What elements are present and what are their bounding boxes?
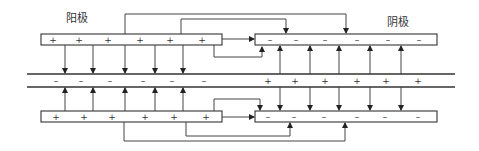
svg-text:+: +	[321, 76, 329, 86]
svg-text:+: +	[141, 112, 149, 122]
svg-text:+: +	[414, 76, 422, 86]
svg-text:–: –	[54, 76, 59, 86]
svg-text:–: –	[416, 112, 421, 122]
svg-text:+: +	[202, 112, 210, 122]
svg-text:+: +	[264, 76, 272, 86]
cathode-label: 阴极	[387, 15, 409, 29]
top-anode-bar: + + + + + +	[41, 34, 222, 45]
svg-text:–: –	[355, 35, 360, 45]
svg-text:–: –	[266, 112, 271, 122]
svg-text:–: –	[355, 112, 360, 122]
central-band: – – – – – – + + + + + +	[27, 74, 455, 87]
svg-text:+: +	[291, 76, 299, 86]
svg-text:+: +	[198, 35, 206, 45]
top-cathode-field-arrows	[280, 46, 401, 74]
svg-text:+: +	[49, 35, 57, 45]
svg-text:–: –	[322, 112, 327, 122]
svg-text:+: +	[104, 35, 112, 45]
svg-text:–: –	[268, 35, 273, 45]
svg-text:+: +	[80, 112, 88, 122]
bottom-cathode-field-arrows	[280, 87, 401, 110]
top-cathode-bar: – – – – – –	[255, 34, 437, 45]
svg-text:+: +	[382, 76, 390, 86]
anode-label: 阳极	[66, 11, 88, 25]
svg-text:–: –	[383, 112, 388, 122]
svg-text:–: –	[141, 76, 146, 86]
electrode-diagram: 阳极 阴极 + + + + + + – – – – – –	[0, 0, 479, 151]
svg-text:–: –	[108, 76, 113, 86]
svg-text:+: +	[353, 76, 361, 86]
svg-text:–: –	[323, 35, 328, 45]
svg-text:+: +	[75, 35, 83, 45]
svg-text:–: –	[202, 76, 207, 86]
bottom-anode-bar: + + + + + +	[41, 111, 222, 122]
bottom-anode-field-arrows	[65, 88, 183, 111]
svg-text:+: +	[170, 112, 178, 122]
svg-text:–: –	[386, 35, 391, 45]
svg-text:+: +	[166, 35, 174, 45]
top-anode-field-arrows	[65, 45, 183, 73]
svg-text:+: +	[136, 35, 144, 45]
svg-text:+: +	[108, 112, 116, 122]
svg-text:–: –	[294, 35, 299, 45]
svg-text:–: –	[79, 76, 84, 86]
svg-text:–: –	[170, 76, 175, 86]
svg-text:–: –	[417, 35, 422, 45]
svg-text:–: –	[292, 112, 297, 122]
svg-text:+: +	[52, 112, 60, 122]
bottom-cathode-bar: – – – – – –	[255, 111, 437, 122]
